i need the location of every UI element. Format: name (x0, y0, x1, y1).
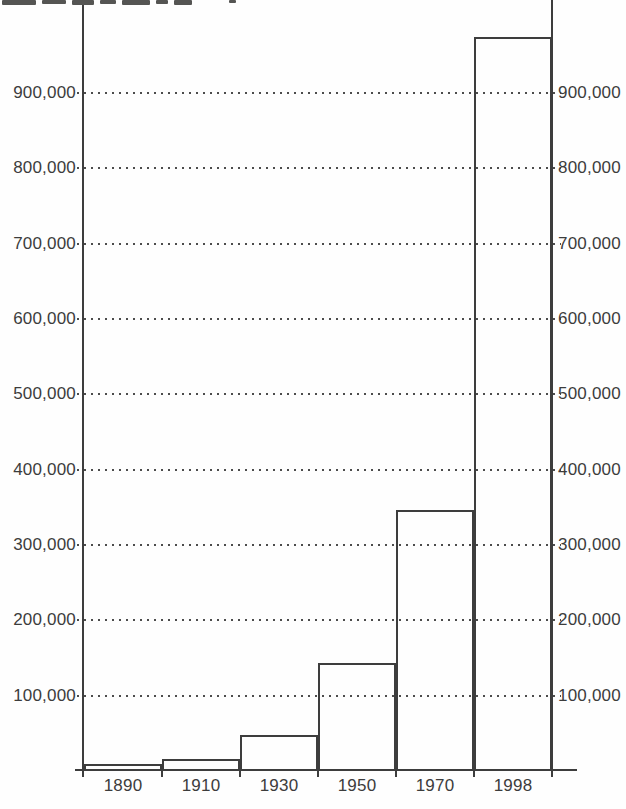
y-axis-label-right: 700,000 (558, 234, 621, 254)
gridline (77, 318, 561, 320)
y-axis-label-right: 800,000 (558, 158, 621, 178)
x-axis-label: 1930 (240, 776, 318, 796)
y-axis-label-left: 500,000 (6, 384, 76, 404)
y-axis-label-right: 500,000 (558, 384, 621, 404)
y-axis-label-left: 800,000 (6, 158, 76, 178)
x-axis (75, 769, 577, 771)
y-axis-label-right: 400,000 (558, 460, 621, 480)
x-axis-label: 1998 (474, 776, 552, 796)
y-axis-label-right: 300,000 (558, 535, 621, 555)
x-axis-label: 1950 (318, 776, 396, 796)
bar-1950 (318, 663, 396, 771)
gridline (77, 243, 561, 245)
text-remnant-mark (122, 0, 150, 5)
x-axis-label: 1910 (162, 776, 240, 796)
x-axis-label: 1970 (396, 776, 474, 796)
y-axis-label-right: 900,000 (558, 83, 621, 103)
gridline (77, 695, 561, 697)
text-remnant-mark (229, 0, 236, 3)
text-remnant-mark (72, 0, 94, 5)
y-axis-label-left: 300,000 (6, 535, 76, 555)
bar-1998 (474, 37, 552, 771)
y-axis-label-left: 200,000 (6, 610, 76, 630)
y-axis-label-left: 100,000 (6, 686, 76, 706)
gridline (77, 167, 561, 169)
y-axis-label-right: 600,000 (558, 309, 621, 329)
gridline (77, 92, 561, 94)
y-axis-left (82, 0, 84, 777)
gridline (77, 619, 561, 621)
bar-1970 (396, 510, 474, 771)
text-remnant-mark (174, 0, 192, 5)
text-remnant-mark (156, 0, 168, 4)
y-axis-label-left: 900,000 (6, 83, 76, 103)
y-axis-label-left: 700,000 (6, 234, 76, 254)
cropped-text-fragment (0, 0, 626, 8)
plot-area: 100,000100,000200,000200,000300,000300,0… (0, 0, 626, 809)
bar-chart: 100,000100,000200,000200,000300,000300,0… (0, 0, 626, 809)
gridline (77, 544, 561, 546)
y-axis-label-left: 400,000 (6, 460, 76, 480)
gridline (77, 469, 561, 471)
gridline (77, 393, 561, 395)
x-axis-label: 1890 (84, 776, 162, 796)
text-remnant-mark (100, 0, 116, 4)
y-axis-right (551, 0, 553, 777)
y-axis-label-right: 200,000 (558, 610, 621, 630)
text-remnant-mark (2, 0, 36, 5)
text-remnant-mark (42, 0, 66, 4)
y-axis-label-left: 600,000 (6, 309, 76, 329)
y-axis-label-right: 100,000 (558, 686, 621, 706)
bar-1930 (240, 735, 318, 771)
